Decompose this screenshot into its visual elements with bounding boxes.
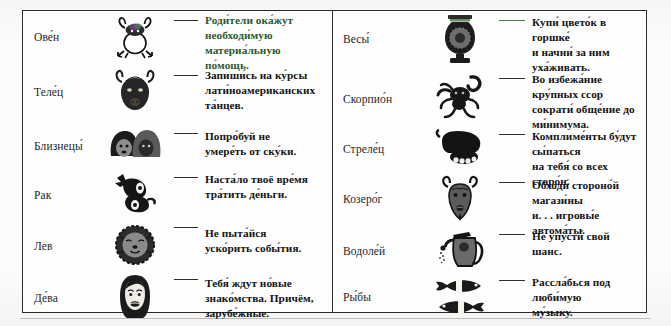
taurus-bull-icon — [113, 68, 157, 118]
zodiac-advice-text: Не пыта́йся уско́рить собы́тия. — [205, 220, 332, 256]
advice-line: Во избежа́ние кру́пных ссор — [532, 72, 640, 102]
zodiac-sign-label: Теле́ц — [23, 68, 96, 100]
zodiac-sign-label: Близнецы́ — [23, 126, 96, 154]
zodiac-advice-text: Не упусти́ свой шанс. — [532, 227, 646, 259]
zodiac-icon-cell — [421, 227, 499, 271]
zodiac-advice-text: Рассла́бься под люби́мую му́зыку. — [532, 273, 646, 320]
row-connector-dash — [174, 227, 198, 228]
advice-line: Тебя́ ждут но́вые — [205, 276, 326, 291]
advice-line: Купи́ цвето́к в горшке́ — [532, 15, 640, 45]
row-connector-dash — [499, 20, 525, 21]
table-row: Весы́ — [333, 13, 646, 71]
advice-line: Попро́буй не — [205, 129, 326, 144]
advice-line: знако́мства. Причём, — [205, 291, 326, 306]
zodiac-sign-label: Козеро́г — [333, 175, 421, 207]
advice-line: та́нцев. — [205, 98, 326, 113]
libra-scales-icon — [439, 13, 481, 65]
advice-line: Рассла́бься под люби́мую — [532, 275, 640, 305]
zodiac-advice-text: Роди́тели ока́жут необходи́мую материа́л… — [205, 13, 332, 73]
table-row: Скорпио́н — [333, 71, 646, 127]
zodiac-advice-text: Попро́буй не умере́ть от ску́ки. — [205, 126, 332, 159]
row-connector-dash — [174, 20, 198, 21]
row-connector-dash — [499, 280, 525, 281]
zodiac-icon-cell — [96, 68, 174, 118]
zodiac-sign-label: Лев — [23, 220, 96, 254]
table-row: Лев — [23, 220, 332, 272]
table-row: Де́ва — [23, 272, 332, 324]
zodiac-icon-cell — [421, 273, 499, 321]
gemini-twins-icon — [106, 126, 164, 164]
advice-line: умере́ть от ску́ки. — [205, 144, 326, 159]
row-connector-dash — [499, 78, 525, 79]
advice-line: Запиши́сь на ку́рсы — [205, 68, 326, 83]
row-connector-dash — [499, 182, 525, 183]
table-row: Ры́бы — [333, 273, 646, 319]
zodiac-advice-text: Тебя́ ждут но́вые знако́мства. Причём, з… — [205, 272, 332, 321]
advice-line: Комплиме́нты бу́дут сы́паться — [532, 129, 640, 159]
zodiac-sign-label: Водоле́й — [333, 227, 421, 259]
advice-line: Обходи́ стороно́й магази́ны — [532, 178, 640, 208]
pisces-fish-icon — [433, 273, 487, 321]
zodiac-column-left: Ове́н — [23, 11, 333, 312]
table-row: Близнецы́ — [23, 126, 332, 170]
row-connector-dash — [499, 134, 525, 135]
zodiac-icon-cell — [96, 272, 174, 322]
advice-line: Наста́ло твоё вре́мя — [205, 172, 326, 187]
table-row: Рак — [23, 170, 332, 220]
zodiac-icon-cell — [96, 13, 174, 61]
zodiac-icon-cell — [421, 175, 499, 225]
zodiac-advice-text: Наста́ло твоё вре́мя тра́тить де́ньги. — [205, 170, 332, 202]
zodiac-icon-cell — [96, 220, 174, 268]
advice-line: сократи́ обще́ние до — [532, 102, 640, 117]
virgo-maiden-icon — [113, 272, 157, 322]
row-connector-dash — [174, 75, 198, 76]
zodiac-column-right: Весы́ — [333, 11, 646, 312]
zodiac-icon-cell — [96, 170, 174, 216]
zodiac-advice-text: Запиши́сь на ку́рсы лати́ноамериканских … — [205, 68, 332, 113]
table-row: Козеро́г — [333, 175, 646, 227]
advice-line: необходи́мую — [205, 28, 326, 43]
scanned-page: Ове́н — [0, 0, 671, 326]
row-connector-dash — [174, 279, 198, 280]
zodiac-sign-label: Де́ва — [23, 272, 96, 306]
zodiac-sign-label: Скорпио́н — [333, 71, 421, 107]
aquarius-watering-can-icon — [434, 227, 486, 271]
horoscope-table: Ове́н — [22, 10, 647, 313]
page-bottom-rule — [20, 318, 650, 319]
table-row: Стреле́ц — [333, 127, 646, 175]
row-connector-dash — [174, 177, 198, 178]
zodiac-advice-text: Во избежа́ние кру́пных ссор сократи́ общ… — [532, 71, 646, 132]
zodiac-sign-label: Ры́бы — [333, 273, 421, 305]
zodiac-icon-cell — [421, 127, 499, 169]
table-row: Теле́ц — [23, 68, 332, 126]
row-connector-dash — [174, 133, 198, 134]
advice-line: Роди́тели ока́жут — [205, 13, 326, 28]
advice-line: уско́рить собы́тия. — [205, 241, 326, 256]
leo-lion-icon — [112, 220, 158, 268]
aries-ram-icon — [113, 13, 157, 61]
advice-line: лати́ноамериканских — [205, 83, 326, 98]
zodiac-sign-label: Стреле́ц — [333, 127, 421, 157]
zodiac-sign-label: Рак — [23, 170, 96, 203]
sagittarius-centaur-icon — [434, 127, 486, 169]
advice-line: Не пыта́йся — [205, 226, 326, 241]
zodiac-advice-text: Купи́ цвето́к в горшке́ и начни́ за ним … — [532, 13, 646, 75]
zodiac-sign-label: Ове́н — [23, 13, 96, 45]
zodiac-icon-cell — [421, 71, 499, 121]
advice-line: тра́тить де́ньги. — [205, 187, 326, 202]
table-row: Водоле́й — [333, 227, 646, 273]
zodiac-sign-label: Весы́ — [333, 13, 421, 47]
capricorn-goat-icon — [438, 175, 482, 225]
zodiac-icon-cell — [96, 126, 174, 164]
cancer-crab-icon — [111, 170, 159, 216]
advice-line: Не упусти́ свой шанс. — [532, 229, 640, 259]
scorpio-scorpion-icon — [435, 71, 485, 121]
table-row: Ове́н — [23, 13, 332, 68]
row-connector-dash — [499, 234, 525, 235]
zodiac-icon-cell — [421, 13, 499, 65]
